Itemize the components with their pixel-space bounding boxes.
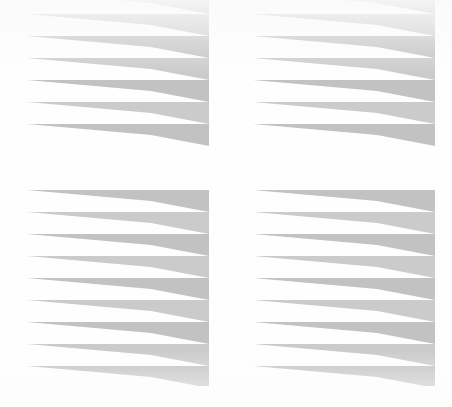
block-bottom-left — [27, 190, 209, 386]
bar — [27, 0, 209, 14]
bar — [27, 234, 209, 256]
bar — [253, 366, 435, 386]
bar — [253, 58, 435, 80]
bar — [253, 212, 435, 234]
bar — [27, 102, 209, 124]
block-top-left — [27, 0, 209, 166]
bar — [253, 344, 435, 366]
block-top-left-graphic — [27, 0, 209, 166]
bar — [27, 212, 209, 234]
bar — [27, 322, 209, 344]
block-top-right — [253, 0, 435, 166]
block-bottom-left-graphic — [27, 190, 209, 386]
bar — [253, 190, 435, 212]
bar — [253, 322, 435, 344]
block-bottom-right-graphic — [253, 190, 435, 386]
bar — [253, 102, 435, 124]
block-top-right-graphic — [253, 0, 435, 166]
block-bottom-right — [253, 190, 435, 386]
bar — [253, 0, 435, 14]
bar — [27, 366, 209, 386]
bar — [27, 58, 209, 80]
bar — [253, 256, 435, 278]
bar — [253, 234, 435, 256]
bar — [253, 80, 435, 102]
bar — [27, 278, 209, 300]
bar — [27, 190, 209, 212]
bar — [253, 124, 435, 146]
bar — [27, 124, 209, 146]
bar — [27, 344, 209, 366]
bar — [27, 36, 209, 58]
bar — [253, 300, 435, 322]
bar — [27, 300, 209, 322]
bar — [27, 256, 209, 278]
bar — [253, 36, 435, 58]
bar — [27, 14, 209, 36]
bar — [253, 278, 435, 300]
bar — [27, 80, 209, 102]
bar — [253, 14, 435, 36]
scanned-page: Scanned page showing four blocks of hori… — [0, 0, 452, 407]
